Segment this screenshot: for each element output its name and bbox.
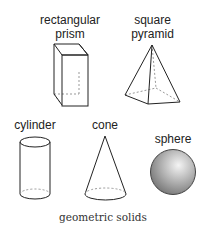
rectangular-prism-shape: [54, 44, 88, 106]
sphere-shape: [151, 150, 196, 195]
square-pyramid-shape: [125, 45, 180, 104]
solids-illustration: [0, 0, 206, 233]
diagram-caption: geometric solids: [0, 211, 206, 223]
cone-shape: [85, 136, 126, 200]
cylinder-shape: [20, 137, 50, 199]
